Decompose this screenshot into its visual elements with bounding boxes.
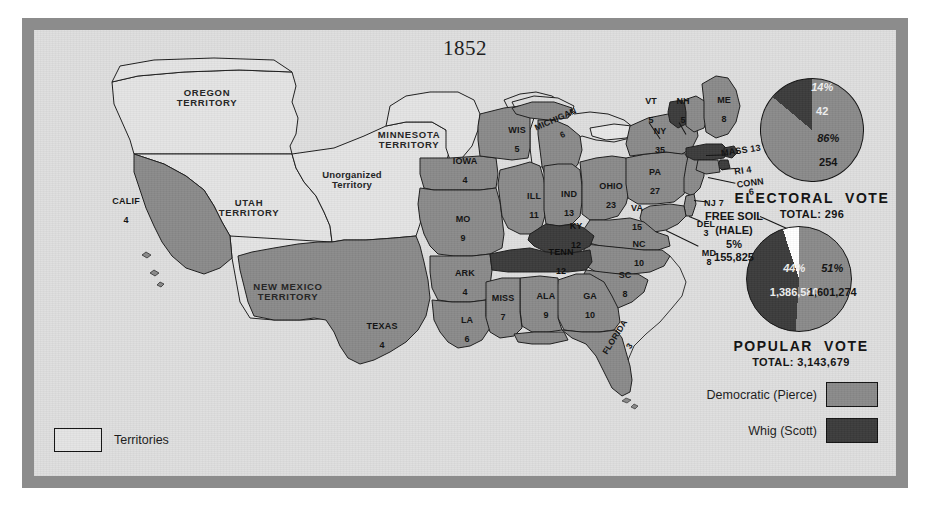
- party-legend: Democratic (Pierce) Whig (Scott): [707, 382, 878, 454]
- state-label-ala: ALA 9: [521, 283, 556, 329]
- state-label-nj: NJ 7: [704, 199, 724, 208]
- state-votes: 4: [379, 340, 384, 350]
- florida-keys: [622, 398, 638, 409]
- popular-dem-label: 51% 1,601,274: [783, 250, 856, 310]
- state-votes: 10: [634, 258, 644, 268]
- state-votes: 5: [514, 144, 519, 154]
- legend-swatch-whig: [826, 418, 878, 443]
- map-title: 1852: [34, 36, 896, 61]
- electoral-vote-chart: 14% 42 86% 254: [760, 78, 864, 182]
- state-label-vt: VT 5: [629, 88, 657, 134]
- state-votes: 5: [648, 115, 653, 125]
- state-abbr: ALA: [536, 291, 555, 301]
- state-votes: 9: [460, 233, 465, 243]
- state-abbr: IOWA: [453, 156, 478, 166]
- territory-label-minnesota: MINNESOTA TERRITORY: [378, 130, 441, 149]
- state-abbr: VT: [645, 96, 657, 106]
- state-votes: 4: [462, 287, 467, 297]
- state-abbr: CALIF: [112, 196, 140, 206]
- state-abbr: NH: [676, 96, 689, 106]
- electoral-map-figure: 1852: [0, 0, 930, 506]
- state-votes: 15: [632, 222, 642, 232]
- electoral-dem-label: 86% 254: [793, 120, 839, 180]
- state-label-nh: NH 5: [660, 88, 690, 134]
- state-shape-california-islands: [142, 252, 164, 287]
- state-votes: 5: [680, 115, 685, 125]
- territory-label-utah: UTAH TERRITORY: [219, 198, 280, 217]
- state-abbr: ARK: [455, 268, 475, 278]
- state-votes: 27: [650, 186, 660, 196]
- electoral-whig-percent: 14%: [811, 81, 833, 93]
- popular-vote-subtitle: TOTAL: 3,143,679: [720, 356, 882, 368]
- state-abbr: TENN: [548, 247, 573, 257]
- legend-label-democratic: Democratic (Pierce): [707, 388, 817, 402]
- state-label-iowa: IOWA 4: [436, 148, 477, 194]
- state-votes: 4: [123, 215, 128, 225]
- state-votes: 10: [585, 310, 595, 320]
- popular-vote-title: POPULAR VOTE: [720, 338, 882, 354]
- state-abbr: PA: [649, 167, 661, 177]
- legend-label-whig: Whig (Scott): [748, 424, 817, 438]
- state-abbr: IND: [561, 189, 577, 199]
- state-votes: 7: [500, 312, 505, 322]
- state-shape-florida-panhandle: [514, 332, 568, 344]
- state-label-ill: ILL 11: [511, 183, 541, 229]
- state-abbr: TEXAS: [367, 321, 398, 331]
- state-abbr: ME: [717, 95, 731, 105]
- state-votes: 35: [655, 145, 665, 155]
- state-votes: 8: [721, 114, 726, 124]
- state-label-ark: ARK 4: [439, 260, 475, 306]
- free-soil-annotation: FREE SOIL (HALE) 5% 155,825: [676, 210, 792, 265]
- state-votes: 11: [529, 210, 539, 220]
- state-abbr: ILL: [527, 191, 541, 201]
- state-abbr: GA: [583, 291, 597, 301]
- state-votes: 6: [558, 129, 567, 140]
- state-label-me: ME 8: [701, 87, 731, 133]
- state-label-va: VA 15: [615, 195, 643, 241]
- map-sheet: 1852: [34, 30, 896, 476]
- state-label-ga: GA 10: [567, 283, 597, 329]
- popular-dem-value: 1,601,274: [808, 286, 857, 298]
- legend-swatch-democratic: [826, 382, 878, 407]
- state-label-la: LA 6: [445, 307, 474, 353]
- legend-swatch-territories: [54, 428, 102, 452]
- electoral-whig-value: 42: [816, 105, 828, 117]
- state-votes: 12: [556, 266, 566, 276]
- state-shape-oregon-territory: [112, 70, 298, 154]
- state-label-mo: MO 9: [439, 206, 470, 252]
- state-votes: 9: [543, 310, 548, 320]
- territory-label-unorganized: Unorganized Territory: [322, 170, 382, 189]
- state-abbr: MO: [456, 214, 471, 224]
- state-shape-connecticut: [696, 160, 720, 174]
- popular-dem-percent: 51%: [821, 262, 843, 274]
- state-abbr: LA: [461, 315, 473, 325]
- territory-label-new-mexico: NEW MEXICO TERRITORY: [253, 282, 322, 301]
- state-label-calif: CALIF 4: [96, 188, 140, 234]
- electoral-dem-value: 254: [819, 156, 837, 168]
- state-abbr: KY: [570, 221, 583, 231]
- territories-legend: Territories: [54, 428, 169, 452]
- state-label-tenn: TENN 12: [532, 239, 574, 285]
- legend-row-democratic: Democratic (Pierce): [707, 382, 878, 407]
- state-abbr: OHIO: [599, 181, 623, 191]
- territory-label-oregon: OREGON TERRITORY: [177, 88, 238, 107]
- state-abbr: VA: [631, 203, 643, 213]
- state-votes: 4: [462, 175, 467, 185]
- legend-label-territories: Territories: [114, 433, 169, 447]
- electoral-dem-percent: 86%: [817, 132, 839, 144]
- electoral-vote-title: ELECTORAL VOTE: [734, 190, 890, 206]
- state-votes: 3: [624, 341, 635, 350]
- state-label-miss: MISS 7: [475, 285, 514, 331]
- state-abbr: MISS: [492, 293, 515, 303]
- state-votes: 6: [464, 334, 469, 344]
- legend-row-whig: Whig (Scott): [707, 418, 878, 443]
- state-label-texas: TEXAS 4: [350, 313, 397, 359]
- state-votes: 8: [622, 289, 627, 299]
